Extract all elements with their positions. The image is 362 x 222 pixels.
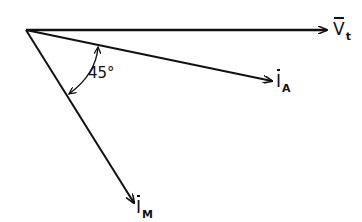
vector-ia-arrow <box>26 30 272 81</box>
label-im: IM <box>136 197 152 217</box>
label-im-symbol: I <box>136 197 141 217</box>
angle-label: 45° <box>88 64 115 82</box>
angle-value: 45° <box>88 64 115 82</box>
symbol: I <box>276 71 281 91</box>
label-ia-symbol: I <box>276 71 281 91</box>
symbol: V <box>333 19 345 39</box>
overline <box>334 17 344 19</box>
label-vt-symbol: V <box>333 19 345 39</box>
symbol: I <box>136 197 141 217</box>
overline <box>277 69 280 71</box>
overline <box>137 195 140 197</box>
label-ia: IA <box>276 71 290 91</box>
label-im-subscript: M <box>142 208 153 221</box>
label-vt-subscript: t <box>346 30 351 43</box>
label-ia-subscript: A <box>282 82 291 95</box>
vector-im-arrow <box>26 30 134 203</box>
label-vt: Vt <box>333 19 350 39</box>
phasor-diagram-canvas <box>0 0 362 222</box>
